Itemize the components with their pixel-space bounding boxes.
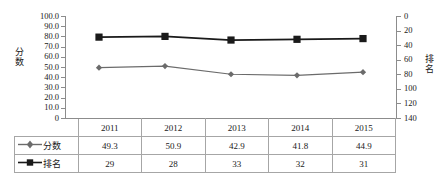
table-cell-rank: 28	[142, 155, 206, 173]
table-row: 排名 29 28 33 32 31	[15, 155, 396, 173]
figure-caption	[36, 180, 416, 187]
right-axis-tick-label: 0	[404, 12, 434, 21]
left-axis-tick-label: 100.0	[25, 12, 59, 21]
square-marker-icon	[95, 34, 102, 41]
right-axis-tick-label: 20	[404, 26, 434, 35]
diamond-icon	[18, 140, 42, 151]
left-axis-tick-label: 90.0	[25, 22, 59, 31]
year-header-cell: 2014	[269, 119, 333, 137]
right-axis-tick	[397, 89, 401, 90]
left-axis-tick	[61, 87, 65, 88]
left-axis-tick-label: 70.0	[25, 42, 59, 51]
square-icon	[18, 158, 42, 169]
legend-label-score: 分数	[43, 139, 61, 152]
left-axis-tick	[61, 16, 65, 17]
left-axis-tick	[61, 57, 65, 58]
legend-label-rank: 排名	[43, 157, 61, 170]
table-corner	[15, 119, 79, 137]
left-axis-tick-label: 50.0	[25, 63, 59, 72]
table-cell-score: 50.9	[142, 137, 206, 155]
left-axis-tick	[61, 67, 65, 68]
left-axis-tick-label: 60.0	[25, 52, 59, 61]
left-axis-tick	[61, 108, 65, 109]
table-cell-rank: 32	[269, 155, 333, 173]
left-axis-tick	[61, 98, 65, 99]
table-row-years: 2011 2012 2013 2014 2015	[15, 119, 396, 137]
right-axis-tick-label: 140	[404, 114, 434, 123]
left-axis-tick-label: 10.0	[25, 103, 59, 112]
left-axis-tick	[61, 77, 65, 78]
table-cell-rank: 31	[332, 155, 396, 173]
diamond-marker-icon	[294, 72, 300, 78]
table-cell-score: 41.8	[269, 137, 333, 155]
year-header-cell: 2011	[78, 119, 142, 137]
square-marker-icon	[161, 33, 168, 40]
table-row: 分数 49.3 50.9 42.9 41.8 44.9	[15, 137, 396, 155]
table-cell-score: 42.9	[205, 137, 269, 155]
right-axis-tick	[397, 74, 401, 75]
table-cell-rank: 33	[205, 155, 269, 173]
diamond-marker-icon	[96, 65, 102, 71]
square-marker-icon	[227, 36, 234, 43]
left-axis-title: 分数	[14, 48, 25, 67]
left-axis-tick	[61, 36, 65, 37]
table-cell-rank: 29	[78, 155, 142, 173]
right-axis-tick	[397, 103, 401, 104]
left-axis-tick-label: 20.0	[25, 93, 59, 102]
left-axis-tick	[61, 26, 65, 27]
right-axis-tick-label: 40	[404, 41, 434, 50]
right-axis-tick	[397, 60, 401, 61]
diamond-marker-icon	[228, 71, 234, 77]
right-axis-tick	[397, 31, 401, 32]
right-axis-tick-label: 120	[404, 99, 434, 108]
left-axis-tick-label: 40.0	[25, 73, 59, 82]
right-axis-title: 排名	[424, 55, 435, 74]
left-axis-tick	[61, 47, 65, 48]
right-axis-tick	[397, 118, 401, 119]
chart-container: 100.090.080.070.060.050.040.030.020.010.…	[0, 0, 440, 187]
left-axis-tick-label: 30.0	[25, 83, 59, 92]
table-cell-score: 44.9	[332, 137, 396, 155]
right-axis-tick	[397, 16, 401, 17]
legend-item-rank: 排名	[15, 155, 79, 173]
right-axis-tick	[397, 45, 401, 46]
table-cell-score: 49.3	[78, 137, 142, 155]
square-marker-icon	[293, 36, 300, 43]
legend-item-score: 分数	[15, 137, 79, 155]
year-header-cell: 2015	[332, 119, 396, 137]
diamond-marker-icon	[360, 69, 366, 75]
data-table: 2011 2012 2013 2014 2015 分数	[14, 118, 396, 173]
plot-area	[66, 16, 396, 118]
year-header-cell: 2013	[205, 119, 269, 137]
square-marker-icon	[359, 35, 366, 42]
year-header-cell: 2012	[142, 119, 206, 137]
diamond-marker-icon	[162, 63, 168, 69]
right-axis-tick-label: 100	[404, 84, 434, 93]
series-layer	[66, 16, 396, 118]
left-axis-tick-label: 80.0	[25, 32, 59, 41]
